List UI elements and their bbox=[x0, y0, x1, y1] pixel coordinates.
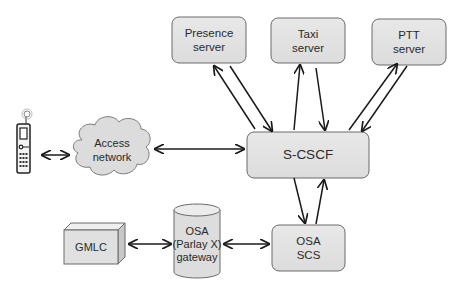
ptt-server-label: PTT server bbox=[372, 19, 446, 65]
osascs-label-line1: OSA bbox=[296, 234, 320, 248]
gateway-label-line2: (Parlay X) bbox=[173, 238, 222, 251]
ptt-label-line2: server bbox=[393, 42, 425, 56]
arrow-presence-scscf bbox=[230, 66, 272, 131]
arrow-taxi-scscf bbox=[316, 68, 325, 130]
arrow-scscf-taxi bbox=[294, 65, 300, 130]
scscf-label-text: S-CSCF bbox=[283, 148, 333, 162]
taxi-label-line2: server bbox=[292, 41, 324, 55]
mobile-phone-icon bbox=[17, 109, 32, 173]
ptt-label-line1: PTT bbox=[398, 28, 420, 42]
gmlc-label-text: GMLC bbox=[75, 240, 107, 254]
presence-label-line2: server bbox=[193, 40, 225, 54]
arrow-scscf-presence bbox=[214, 66, 255, 129]
access-label-line2: network bbox=[93, 150, 132, 164]
osascs-label-line2: SCS bbox=[297, 248, 321, 262]
osa-scs-label: OSA SCS bbox=[272, 225, 345, 271]
gateway-label-line3: gateway bbox=[177, 251, 218, 264]
access-network-label: Access network bbox=[74, 130, 150, 170]
taxi-label-line1: Taxi bbox=[298, 27, 318, 41]
taxi-server-label: Taxi server bbox=[271, 18, 345, 63]
gmlc-label: GMLC bbox=[64, 230, 118, 264]
arrow-ptt-scscf bbox=[362, 66, 407, 131]
access-label-line1: Access bbox=[94, 136, 129, 150]
scscf-label: S-CSCF bbox=[247, 132, 369, 178]
arrow-scscf-osascs bbox=[294, 178, 305, 223]
arrow-osascs-scscf bbox=[316, 180, 324, 224]
arrow-scscf-ptt bbox=[349, 64, 397, 130]
presence-server-label: Presence server bbox=[172, 17, 246, 63]
gateway-label-line1: OSA bbox=[185, 225, 208, 238]
presence-label-line1: Presence bbox=[185, 26, 234, 40]
osa-gateway-label: OSA (Parlay X) gateway bbox=[172, 220, 222, 268]
